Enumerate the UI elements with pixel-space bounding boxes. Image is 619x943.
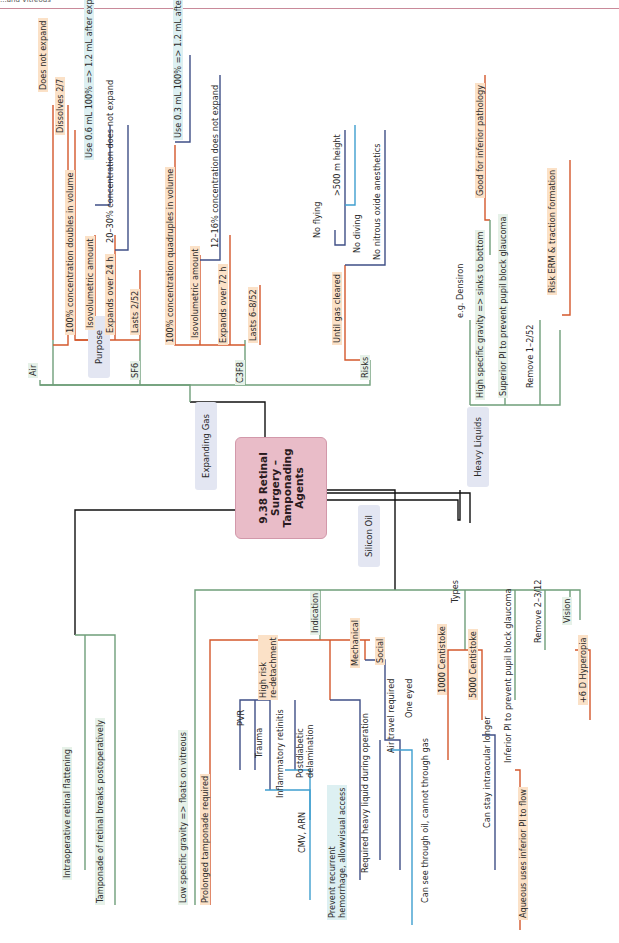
node-sf6[interactable]: SF6 bbox=[130, 361, 140, 380]
node-inflammatory[interactable]: Inflammatory retinitis bbox=[275, 707, 285, 800]
node-densiron[interactable]: e.g. Densiron bbox=[455, 262, 465, 321]
node-risks[interactable]: Risks bbox=[360, 355, 370, 380]
node-sf6-isovolumetric[interactable]: Isovolumetric amount bbox=[85, 236, 95, 330]
node-c3f8-iso-note[interactable]: 12–16% concentration does not expand bbox=[210, 83, 220, 250]
category-heavy-liquids[interactable]: Heavy Liquids bbox=[467, 407, 489, 487]
node-dissolves[interactable]: Dissolves 2/7 bbox=[55, 77, 65, 135]
node-c3f8-quadruples[interactable]: 100% concentration quadruples in volume bbox=[165, 167, 175, 345]
central-topic-title: 9.38 Retinal Surgery – Tamponading Agent… bbox=[257, 448, 305, 527]
node-air-travel[interactable]: Air travel required bbox=[386, 676, 396, 755]
node-c3f8-expands[interactable]: Expands over 72 h bbox=[218, 264, 228, 345]
node-indication[interactable]: Indication bbox=[310, 591, 320, 635]
node-no-nitrous[interactable]: No nitrous oxide anesthetics bbox=[372, 141, 382, 262]
node-does-not-expand[interactable]: Does not expand bbox=[38, 18, 48, 92]
category-expanding-gas[interactable]: Expanding Gas bbox=[195, 402, 217, 490]
node-social[interactable]: Social bbox=[375, 637, 385, 665]
node-prolonged[interactable]: Prolonged tamponade required bbox=[200, 774, 210, 905]
node-superior-pi[interactable]: Superior PI to prevent pupil block glauc… bbox=[498, 214, 508, 398]
node-500m[interactable]: >500 m height bbox=[332, 132, 342, 198]
node-see-through-oil[interactable]: Can see through oil, cannot through gas bbox=[420, 736, 430, 905]
node-c3f8-dose[interactable]: Use 0.3 mL 100% => 1.2 mL after expansio… bbox=[173, 0, 183, 140]
node-remove-2-3[interactable]: Remove 2–3/12 bbox=[533, 577, 543, 645]
central-topic[interactable]: 9.38 Retinal Surgery – Tamponading Agent… bbox=[235, 437, 327, 539]
node-c3f8[interactable]: C3F8 bbox=[235, 360, 245, 385]
node-high-risk[interactable]: High risk re-detachment bbox=[258, 635, 278, 700]
node-vision[interactable]: Vision bbox=[562, 597, 572, 625]
node-sf6-expands[interactable]: Expands over 24 h bbox=[105, 254, 115, 335]
category-silicon-oil[interactable]: Silicon Oil bbox=[358, 505, 380, 567]
node-air[interactable]: Air bbox=[28, 363, 38, 378]
node-aqueous[interactable]: Aqueous uses inferior PI to flow bbox=[518, 787, 528, 920]
node-sf6-lasts[interactable]: Lasts 2/52 bbox=[130, 289, 140, 335]
node-prevent-hemorrhage[interactable]: Prevent recurrent hemorrhage, allowvisua… bbox=[327, 785, 347, 920]
node-high-sg[interactable]: High specific gravity => sinks to bottom bbox=[475, 230, 485, 400]
node-no-flying[interactable]: No flying bbox=[312, 200, 322, 240]
node-until-gas-cleared[interactable]: Until gas cleared bbox=[332, 272, 342, 345]
node-types[interactable]: Types bbox=[450, 578, 460, 605]
node-stay-longer[interactable]: Can stay intraocular longer bbox=[482, 714, 492, 830]
node-low-sg[interactable]: Low specific gravity => floats on vitreo… bbox=[178, 730, 188, 905]
node-heavy-liquid-op[interactable]: Required heavy liquid during operation bbox=[360, 711, 370, 875]
node-5000cs[interactable]: 5000 Centistoke bbox=[468, 629, 478, 700]
node-intraoperative[interactable]: Intraoperative retinal flattening bbox=[62, 747, 72, 880]
node-risk-erm[interactable]: Risk ERM & traction formation bbox=[547, 168, 557, 295]
node-c3f8-lasts[interactable]: Lasts 6–8/52 bbox=[248, 287, 258, 343]
node-good-inferior[interactable]: Good for inferior pathology bbox=[475, 83, 485, 198]
node-remove-1-2[interactable]: Remove 1–2/52 bbox=[525, 322, 535, 390]
node-sf6-dose[interactable]: Use 0.6 mL 100% => 1.2 mL after expansio… bbox=[84, 0, 94, 160]
node-one-eyed[interactable]: One eyed bbox=[404, 677, 414, 720]
node-trauma[interactable]: Trauma bbox=[254, 726, 264, 760]
node-inferior-pi[interactable]: Inferior PI to prevent pupil block glauc… bbox=[503, 587, 513, 765]
node-cmv[interactable]: CMV, ARN bbox=[297, 810, 307, 855]
node-postdiabetic[interactable]: Postdiabetic delamination bbox=[295, 722, 315, 780]
node-pvr[interactable]: PVR bbox=[236, 708, 246, 728]
node-hyperopia[interactable]: +6 D Hyperopia bbox=[578, 636, 588, 706]
node-1000cs[interactable]: 1000 Centistoke bbox=[437, 624, 447, 695]
node-sf6-doubles[interactable]: 100% concentration doubles in volume bbox=[65, 171, 75, 336]
node-mechanical[interactable]: Mechanical bbox=[350, 618, 360, 668]
node-c3f8-isovolumetric[interactable]: Isovolumetric amount bbox=[190, 246, 200, 340]
node-no-diving[interactable]: No diving bbox=[352, 212, 362, 255]
node-sf6-iso-note[interactable]: 20–30% concentration does not expand bbox=[105, 78, 115, 245]
node-tamponade-breaks[interactable]: Tamponade of retinal breaks postoperativ… bbox=[95, 718, 105, 905]
